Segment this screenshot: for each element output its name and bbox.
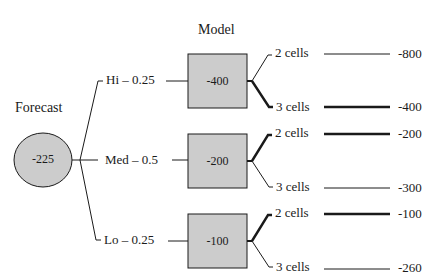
branch-line-lo — [80, 160, 101, 240]
payoff-value-lo-3cells: -260 — [398, 261, 422, 275]
model-value-hi: -400 — [188, 74, 247, 89]
outcome-label-lo-2cells: 2 cells — [275, 206, 309, 220]
outcome-line-hi-3cells — [252, 81, 273, 107]
outcome-label-hi-3cells: 3 cells — [276, 100, 310, 114]
payoff-value-lo-2cells: -100 — [398, 207, 422, 221]
outcome-line-lo-3cells — [252, 241, 273, 267]
forecast-header: Forecast — [15, 101, 62, 115]
outcome-line-med-3cells — [252, 161, 273, 187]
outcome-line-hi-2cells — [252, 55, 272, 81]
outcome-label-hi-2cells: 2 cells — [275, 46, 309, 60]
payoff-value-med-2cells: -200 — [398, 127, 422, 141]
model-value-med: -200 — [188, 154, 247, 169]
payoff-value-hi-2cells: -800 — [398, 47, 422, 61]
branch-label-med: Med – 0.5 — [105, 153, 158, 167]
branch-line-hi — [80, 81, 103, 160]
branch-label-lo: Lo – 0.25 — [104, 233, 154, 247]
branch-label-hi: Hi – 0.25 — [106, 73, 155, 87]
forecast-node-value: -225 — [14, 152, 72, 167]
outcome-label-med-3cells: 3 cells — [276, 180, 310, 194]
payoff-value-hi-3cells: -400 — [398, 100, 422, 114]
model-header: Model — [198, 23, 235, 37]
outcome-line-med-2cells — [252, 135, 272, 161]
outcome-label-lo-3cells: 3 cells — [276, 260, 310, 274]
payoff-value-med-3cells: -300 — [398, 181, 422, 195]
model-value-lo: -100 — [188, 234, 247, 249]
outcome-line-lo-2cells — [252, 215, 272, 241]
outcome-label-med-2cells: 2 cells — [275, 126, 309, 140]
